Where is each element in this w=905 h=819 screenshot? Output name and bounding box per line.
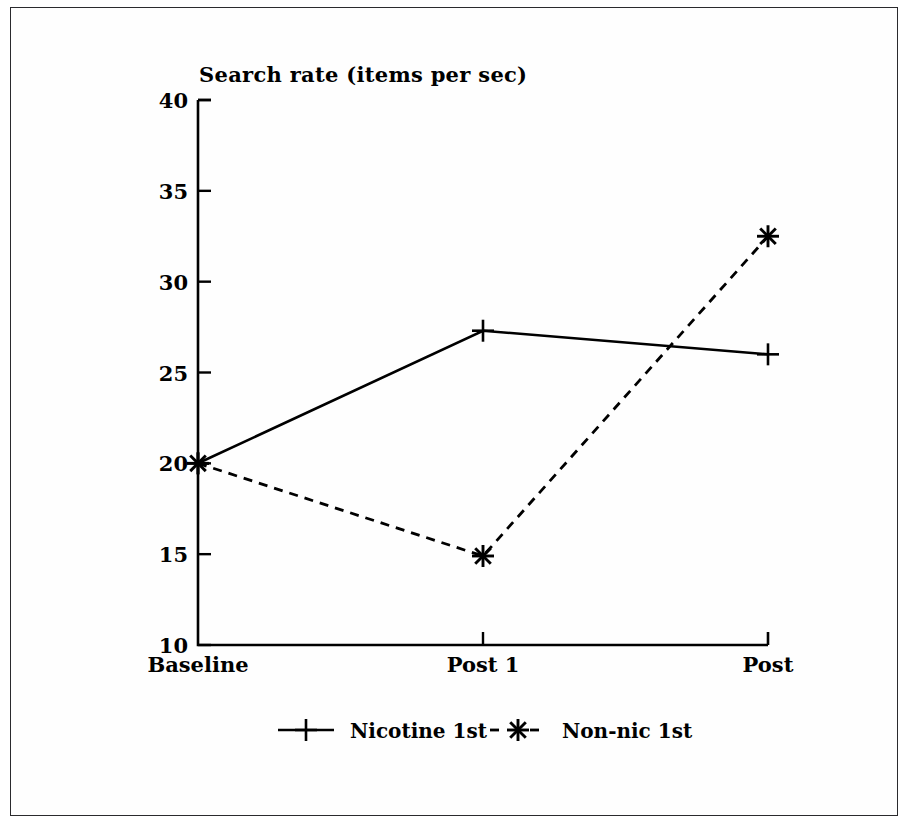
asterisk-marker	[187, 452, 209, 474]
x-category-label: Post	[743, 652, 794, 677]
x-axis-category-labels: BaselinePost 1Post	[147, 652, 793, 677]
line-chart: Search rate (items per sec) 101520253035…	[0, 0, 905, 819]
y-tick-label: 20	[159, 451, 188, 476]
series-line-1	[198, 331, 768, 464]
y-tick-label: 15	[159, 542, 188, 567]
x-category-label: Post 1	[447, 652, 520, 677]
chart-legend: Nicotine 1stNon-nic 1st	[278, 719, 693, 743]
series-1	[187, 320, 779, 475]
y-axis-tick-marks	[198, 100, 211, 645]
y-tick-label: 30	[159, 270, 188, 295]
asterisk-marker	[507, 719, 529, 741]
y-axis-tick-labels: 10152025303540	[159, 88, 188, 658]
data-series-layer	[187, 225, 779, 567]
plus-marker	[295, 719, 317, 741]
y-tick-label: 35	[159, 179, 188, 204]
chart-title: Search rate (items per sec)	[199, 62, 527, 87]
legend-item-2: Non-nic 1st	[490, 719, 693, 743]
legend-label: Non-nic 1st	[562, 719, 693, 743]
legend-label: Nicotine 1st	[350, 719, 488, 743]
plus-marker	[472, 320, 494, 342]
asterisk-marker	[757, 225, 779, 247]
series-2	[187, 225, 779, 567]
x-category-label: Baseline	[147, 652, 248, 677]
plus-marker	[757, 343, 779, 365]
asterisk-marker	[472, 545, 494, 567]
y-tick-label: 40	[159, 88, 188, 113]
legend-item-1: Nicotine 1st	[278, 719, 488, 743]
y-tick-label: 25	[159, 361, 188, 386]
series-line-2	[198, 236, 768, 556]
